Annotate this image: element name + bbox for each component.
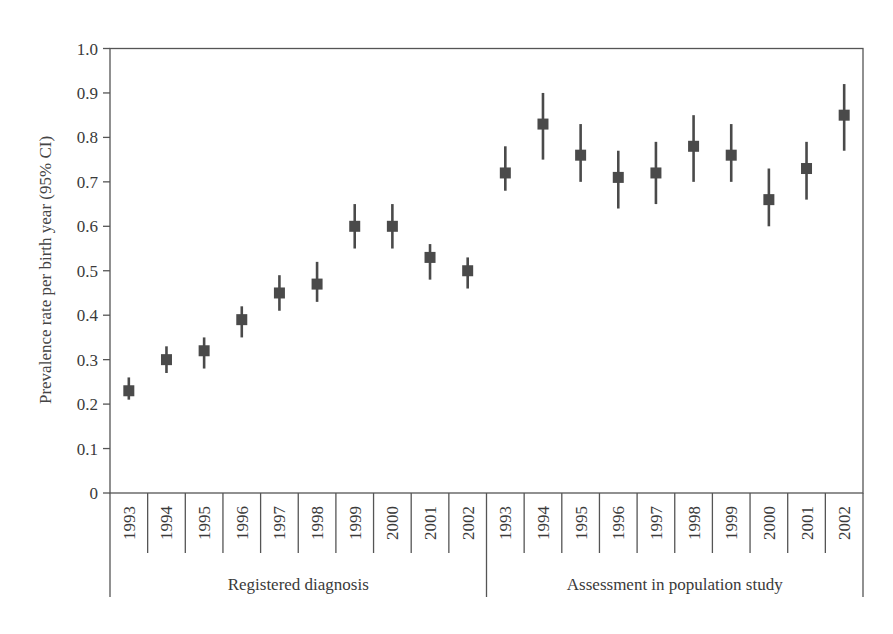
- data-marker: [575, 150, 586, 161]
- data-marker: [387, 221, 398, 232]
- y-tick-label: 0.1: [77, 440, 98, 459]
- y-tick-label: 0.6: [77, 217, 98, 236]
- x-tick-label: 1993: [120, 506, 139, 540]
- x-tick-label: 2001: [421, 506, 440, 540]
- data-marker: [500, 167, 511, 178]
- x-axis: 1993199419951996199719981999200020012002…: [110, 493, 863, 597]
- data-marker: [801, 163, 812, 174]
- data-marker: [650, 167, 661, 178]
- x-tick-label: 1995: [572, 506, 591, 540]
- data-marker: [688, 141, 699, 152]
- y-tick-label: 0.4: [77, 306, 99, 325]
- x-tick-label: 1996: [609, 506, 628, 540]
- y-tick-label: 0.7: [77, 173, 99, 192]
- y-tick-label: 0.8: [77, 128, 98, 147]
- y-axis: 00.10.20.30.40.50.60.70.80.91.0: [77, 40, 110, 504]
- data-marker: [161, 354, 172, 365]
- x-tick-label: 2000: [760, 506, 779, 540]
- y-tick-label: 0.2: [77, 395, 98, 414]
- x-tick-label: 1999: [346, 506, 365, 540]
- x-tick-label: 1994: [157, 506, 176, 541]
- x-tick-label: 1999: [722, 506, 741, 540]
- x-tick-label: 1998: [308, 506, 327, 540]
- data-marker: [839, 110, 850, 121]
- data-marker: [763, 194, 774, 205]
- y-tick-label: 0.3: [77, 351, 98, 370]
- plot-border: [110, 49, 863, 494]
- x-tick-label: 1995: [195, 506, 214, 540]
- data-marker: [349, 221, 360, 232]
- y-tick-label: 0: [90, 484, 99, 503]
- y-tick-label: 0.9: [77, 84, 98, 103]
- data-marker: [236, 314, 247, 325]
- data-marker: [537, 119, 548, 130]
- prevalence-chart: 00.10.20.30.40.50.60.70.80.91.0 19931994…: [0, 0, 893, 634]
- data-marker: [613, 172, 624, 183]
- y-tick-label: 0.5: [77, 262, 98, 281]
- x-tick-label: 1996: [233, 506, 252, 540]
- data-marker: [199, 345, 210, 356]
- data-points: [123, 84, 849, 400]
- x-tick-label: 1998: [685, 506, 704, 540]
- x-tick-label: 2002: [835, 506, 854, 540]
- y-tick-label: 1.0: [77, 40, 98, 59]
- x-tick-label: 1994: [534, 506, 553, 541]
- x-tick-label: 2000: [383, 506, 402, 540]
- data-marker: [274, 287, 285, 298]
- group-label: Registered diagnosis: [228, 575, 369, 594]
- x-tick-label: 1993: [496, 506, 515, 540]
- y-axis-label: Prevalence rate per birth year (95% CI): [36, 136, 56, 404]
- data-marker: [123, 385, 134, 396]
- data-marker: [425, 252, 436, 263]
- data-marker: [312, 279, 323, 290]
- x-tick-label: 1997: [270, 506, 289, 541]
- x-tick-label: 2002: [459, 506, 478, 540]
- group-label: Assessment in population study: [567, 575, 783, 594]
- x-tick-label: 1997: [647, 506, 666, 541]
- plot-frame: [110, 49, 863, 494]
- data-marker: [726, 150, 737, 161]
- x-tick-label: 2001: [798, 506, 817, 540]
- data-marker: [462, 265, 473, 276]
